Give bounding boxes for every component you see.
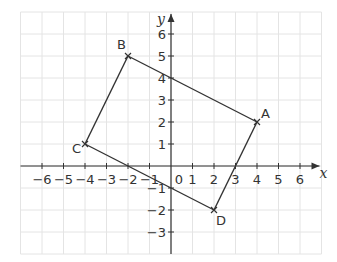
y-tick-label: −2	[147, 203, 166, 218]
x-tick-label: 1	[188, 172, 196, 187]
y-tick-label: 2	[158, 115, 166, 130]
vertex-a-label: A	[261, 106, 270, 121]
x-tick-label: 3	[231, 172, 239, 187]
x-tick-label: −6	[32, 172, 51, 187]
x-tick-label: −5	[54, 172, 73, 187]
x-axis-arrow-icon	[312, 163, 320, 170]
x-tick-label: −2	[118, 172, 137, 187]
y-tick-label: 6	[158, 27, 166, 42]
vertex-d-label: D	[216, 213, 226, 228]
y-axis-label: y	[156, 11, 166, 27]
x-tick-label: 4	[253, 172, 261, 187]
coordinate-grid-figure: xy −6−5−4−3−2−11234560654321−1−2−3 ABCD	[0, 0, 337, 262]
x-tick-label: −4	[75, 172, 94, 187]
vertex-b-label: B	[117, 37, 126, 52]
origin-label: 0	[175, 172, 183, 187]
y-tick-label: 1	[158, 137, 166, 152]
y-tick-label: 3	[158, 93, 166, 108]
axis-ticks: −6−5−4−3−2−11234560654321−1−2−3	[32, 27, 304, 240]
y-tick-label: −1	[147, 181, 166, 196]
x-tick-label: −3	[97, 172, 116, 187]
x-axis-label: x	[320, 165, 328, 181]
y-tick-label: 5	[158, 49, 166, 64]
x-tick-label: 6	[296, 172, 304, 187]
x-tick-label: 5	[274, 172, 282, 187]
axes: xy	[21, 11, 328, 254]
x-tick-label: 2	[210, 172, 218, 187]
y-axis-arrow-icon	[168, 14, 175, 22]
vertex-c-label: C	[72, 141, 81, 156]
plot-canvas: xy −6−5−4−3−2−11234560654321−1−2−3 ABCD	[0, 0, 337, 262]
y-tick-label: −3	[147, 225, 166, 240]
